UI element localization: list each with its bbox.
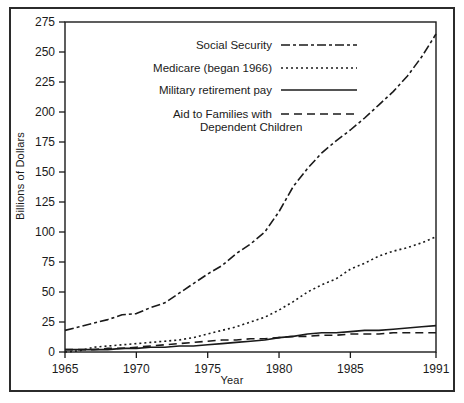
legend-label: Medicare (began 1966)	[153, 62, 272, 74]
y-tick-label: 125	[35, 195, 55, 209]
figure-container: 0255075100125150175200225250275 19651970…	[0, 0, 464, 403]
y-tick-label: 25	[42, 315, 56, 329]
legend-label: Social Security	[196, 39, 272, 51]
y-tick-label: 100	[35, 225, 55, 239]
y-tick-label: 150	[35, 165, 55, 179]
y-tick-label: 275	[35, 15, 55, 29]
y-tick-label: 0	[48, 345, 55, 359]
legend-label: Aid to Families with	[173, 108, 272, 120]
y-tick-label: 175	[35, 135, 55, 149]
y-axis-tick-labels: 0255075100125150175200225250275	[35, 15, 55, 359]
y-axis-ticks	[59, 22, 65, 352]
y-tick-label: 50	[42, 285, 56, 299]
x-axis-title: Year	[0, 374, 464, 386]
line-chart: 0255075100125150175200225250275 19651970…	[0, 0, 464, 403]
y-tick-label: 250	[35, 45, 55, 59]
y-tick-label: 75	[42, 255, 56, 269]
y-tick-label: 225	[35, 75, 55, 89]
legend-label-line2: Dependent Children	[200, 121, 302, 133]
legend-label: Military retirement pay	[159, 84, 272, 96]
y-tick-label: 200	[35, 105, 55, 119]
x-axis-ticks	[65, 352, 436, 358]
y-axis-title: Billions of Dollars	[14, 121, 26, 231]
